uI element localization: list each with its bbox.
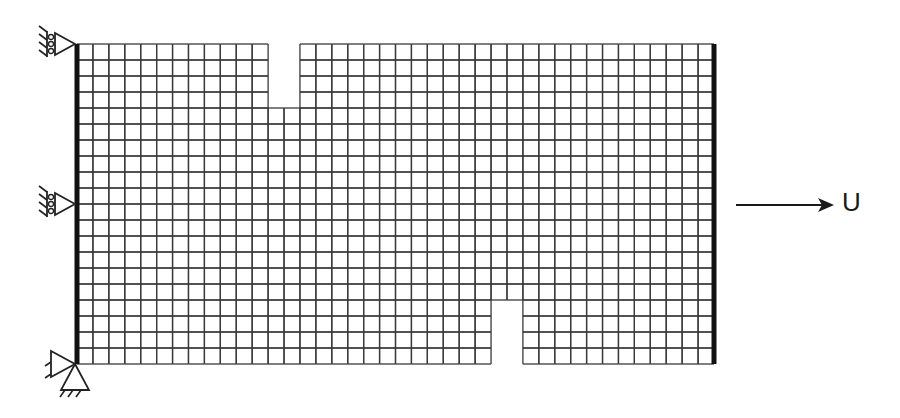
roller-support-top-icon [39,26,75,57]
load-arrow [736,198,834,212]
mesh-grid [77,44,714,364]
fe-mesh-diagram [0,0,900,418]
pin-support-bottom-icon [45,351,89,397]
supports [39,26,89,397]
roller-support-middle-icon [39,186,75,217]
displacement-label: U [842,189,861,215]
